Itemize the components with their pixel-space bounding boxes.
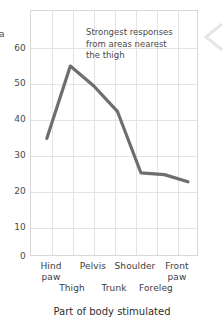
x-tick-label-shoulder: Shoulder [114,261,156,272]
gridline-y-40 [31,120,197,121]
gridline-y-50 [31,84,197,85]
y-tick-label-0: 0 [2,252,26,261]
y-tick-label-60: 60 [2,44,26,53]
x-axis-title: Part of body stimulated [0,306,224,318]
y-tick-label-50: 50 [2,79,26,88]
x-tick-label-front-paw: Frontpaw [156,261,198,282]
chart-figure: a 60 50 40 30 20 10 0 Strongest response… [0,0,224,335]
y-axis-label-partial: a [0,27,9,41]
gridline-y-10 [31,228,197,229]
x-tick-label-trunk: Trunk [93,283,135,294]
x-label-line-2: paw [42,272,61,282]
y-tick-label-30: 30 [2,151,26,160]
x-label-line-1: Hind [40,261,61,271]
x-label-line-1: Front [165,261,188,271]
y-tick-label-20: 20 [2,187,26,196]
chevron-left-icon [202,22,224,52]
x-label-line-2: paw [168,272,187,282]
gridline-y-20 [31,192,197,193]
x-tick-label-foreleg: Foreleg [135,283,177,294]
chart-annotation: Strongest responses from areas nearest t… [86,27,194,62]
x-tick-label-thigh: Thigh [51,283,93,294]
gridline-x-1 [52,11,53,255]
x-tick-label-pelvis: Pelvis [72,261,114,272]
x-tick-label-hind-paw: Hindpaw [30,261,72,282]
gridline-y-30 [31,156,197,157]
y-tick-label-40: 40 [2,115,26,124]
y-tick-label-10: 10 [2,223,26,232]
gridline-x-2 [73,11,74,255]
